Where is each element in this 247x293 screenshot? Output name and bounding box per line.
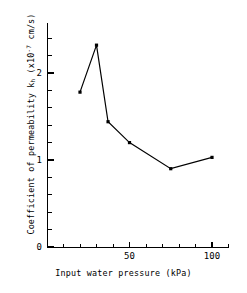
chart-series bbox=[78, 44, 213, 171]
chart-figure: 50100012 Coefficient of permeability kh … bbox=[0, 0, 247, 293]
chart-axes bbox=[47, 23, 229, 248]
y-axis-label-suffix: cm/s) bbox=[26, 13, 36, 44]
chart-tick-labels: 50100012 bbox=[37, 68, 221, 261]
y-axis-label-prefix: Coefficient of permeability k bbox=[26, 83, 36, 235]
y-axis-label-subscript: h bbox=[29, 79, 36, 83]
data-point-marker bbox=[169, 167, 172, 170]
series-line bbox=[80, 45, 212, 169]
y-axis-label-middle: (x10 bbox=[26, 53, 36, 79]
data-point-marker bbox=[106, 120, 109, 123]
data-point-marker bbox=[78, 91, 81, 94]
x-axis-label: Input water pressure (kPa) bbox=[0, 268, 247, 278]
y-axis-label: Coefficient of permeability kh (x10-7 cm… bbox=[20, 0, 38, 249]
x-axis-tick-label: 50 bbox=[124, 251, 135, 261]
data-point-marker bbox=[128, 141, 131, 144]
y-axis-label-superscript: -7 bbox=[25, 45, 32, 53]
chart-ticks bbox=[48, 38, 229, 247]
x-axis-tick-label: 100 bbox=[204, 251, 220, 261]
data-point-marker bbox=[95, 44, 98, 47]
data-point-marker bbox=[210, 156, 213, 159]
